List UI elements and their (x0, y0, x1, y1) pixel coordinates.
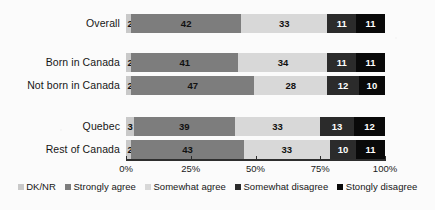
bar-segment: 10 (330, 140, 356, 159)
bar-segment: 33 (244, 140, 330, 159)
legend-label: Strongly agree (73, 181, 136, 192)
bar-segment: 3 (126, 117, 134, 136)
bar-segment: 11 (356, 14, 385, 33)
bar-segment: 28 (254, 76, 327, 95)
segment-value-label: 33 (279, 18, 290, 29)
bar-segment: 13 (320, 117, 354, 136)
segment-value-label: 33 (272, 121, 283, 132)
segment-value-label: 11 (366, 57, 376, 68)
bar-segment: 33 (235, 117, 320, 136)
segment-value-label: 11 (337, 57, 347, 68)
segment-value-label: 10 (367, 80, 378, 91)
row-label: Born in Canada (0, 53, 120, 72)
segment-value-label: 47 (187, 80, 198, 91)
segment-value-label: 34 (278, 57, 289, 68)
segment-value-label: 10 (338, 144, 349, 155)
bar-segment: 47 (131, 76, 254, 95)
x-axis-tick (126, 156, 127, 161)
row-label: Quebec (0, 117, 120, 136)
legend-item: DK/NR (18, 181, 56, 192)
legend-label: DK/NR (26, 181, 56, 192)
bar-segment: 39 (134, 117, 235, 136)
segment-value-label: 39 (179, 121, 190, 132)
bar-segment: 12 (354, 117, 385, 136)
chart-row: Not born in Canada247281210 (0, 76, 435, 95)
bar-segment: 12 (327, 76, 358, 95)
legend-item: Somewhat agree (145, 181, 226, 192)
stacked-bar: 247281210 (126, 76, 385, 95)
legend-label: Somewhat agree (153, 181, 226, 192)
segment-value-label: 13 (332, 121, 343, 132)
x-axis-tick-label: 0% (119, 163, 133, 174)
bar-segment: 11 (356, 53, 385, 72)
stacked-bar-chart: Overall242331111Born in Canada241341111N… (0, 0, 435, 210)
legend-swatch-icon (65, 184, 71, 190)
row-label: Overall (0, 14, 120, 33)
x-axis-tick (191, 156, 192, 161)
row-label: Not born in Canada (0, 76, 120, 95)
x-axis-tick-label: 75% (311, 163, 330, 174)
legend-item: Strongly agree (65, 181, 136, 192)
stacked-bar: 339331312 (126, 117, 385, 136)
segment-value-label: 11 (337, 18, 347, 29)
segment-value-label: 11 (366, 18, 376, 29)
x-axis-tick (385, 156, 386, 161)
legend-label: Somewhat disagree (243, 181, 328, 192)
legend-item: Somewhat disagree (235, 181, 328, 192)
segment-value-label: 42 (181, 18, 192, 29)
x-axis-tick-label: 25% (181, 163, 200, 174)
segment-value-label: 43 (182, 144, 193, 155)
segment-value-label: 11 (366, 144, 376, 155)
x-axis-tick-label: 100% (373, 163, 397, 174)
bar-segment: 11 (327, 53, 356, 72)
segment-value-label: 12 (364, 121, 375, 132)
bar-segment: 11 (356, 140, 385, 159)
chart-row: Born in Canada241341111 (0, 53, 435, 72)
segment-value-label: 33 (282, 144, 293, 155)
x-axis-tick-label: 50% (246, 163, 265, 174)
stacked-bar: 242331111 (126, 14, 385, 33)
chart-row: Quebec339331312 (0, 117, 435, 136)
chart-row: Rest of Canada243331011 (0, 140, 435, 159)
bar-segment: 11 (327, 14, 356, 33)
legend-swatch-icon (337, 184, 343, 190)
x-axis-tick (320, 156, 321, 161)
bar-segment: 42 (131, 14, 241, 33)
segment-value-label: 12 (338, 80, 349, 91)
legend-swatch-icon (18, 184, 24, 190)
segment-value-label: 41 (180, 57, 191, 68)
stacked-bar: 241341111 (126, 53, 385, 72)
row-label: Rest of Canada (0, 140, 120, 159)
chart-row: Overall242331111 (0, 14, 435, 33)
legend-item: Stongly disagree (337, 181, 417, 192)
segment-value-label: 3 (128, 121, 133, 132)
bar-segment: 43 (131, 140, 243, 159)
legend-label: Stongly disagree (346, 181, 418, 192)
x-axis-line (126, 159, 385, 161)
segment-value-label: 28 (286, 80, 297, 91)
x-axis-tick (256, 156, 257, 161)
legend-swatch-icon (145, 184, 151, 190)
chart-legend: DK/NRStrongly agreeSomewhat agreeSomewha… (0, 181, 435, 192)
bar-segment: 10 (359, 76, 385, 95)
bar-segment: 41 (131, 53, 238, 72)
legend-swatch-icon (235, 184, 241, 190)
bar-segment: 33 (241, 14, 327, 33)
bar-segment: 34 (238, 53, 327, 72)
